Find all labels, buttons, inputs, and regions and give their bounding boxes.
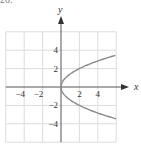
x-tick-label: 2 [77,89,82,99]
x-tick-label: −2 [34,89,44,99]
y-tick-label: 2 [54,64,59,74]
x-axis-arrow-icon [121,84,129,90]
x-tick-label: −4 [15,89,25,99]
y-tick-label: 4 [54,45,59,55]
x-axis-label: x [133,81,139,92]
y-tick-label: −2 [48,100,58,110]
parabola-chart: xy−4−22442−2−4 [0,0,141,147]
y-tick-label: −4 [48,119,58,129]
x-tick-label: 4 [96,89,101,99]
y-axis-label: y [57,4,63,15]
y-axis-arrow-icon [58,16,64,24]
